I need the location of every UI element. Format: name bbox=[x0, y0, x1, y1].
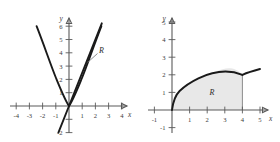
y-tick-label: -1 bbox=[160, 124, 166, 131]
x-tick-label: 1 bbox=[81, 112, 84, 119]
x-tick-label: 3 bbox=[223, 116, 227, 123]
y-tick-label: 1 bbox=[59, 89, 62, 96]
x-tick-label: 3 bbox=[107, 112, 111, 119]
x-tick-label: 2 bbox=[206, 116, 209, 123]
plot-left: -4 -3 -2 -1 1 2 3 4 -2 1 2 3 4 5 6 x y R bbox=[0, 0, 140, 142]
y-tick-label: 1 bbox=[162, 89, 165, 96]
y-axis-label-left: y bbox=[59, 14, 64, 23]
y-tick-label: 4 bbox=[59, 49, 63, 56]
y-tick-label: 2 bbox=[162, 71, 165, 78]
x-tick-label: -2 bbox=[40, 112, 46, 119]
region-label-right: R bbox=[209, 88, 215, 97]
x-tick-label: -1 bbox=[53, 112, 59, 119]
curve-sqrt-tail bbox=[242, 69, 260, 75]
figure-container: -4 -3 -2 -1 1 2 3 4 -2 1 2 3 4 5 6 x y R bbox=[0, 0, 280, 142]
x-tick-label: 5 bbox=[258, 116, 262, 123]
x-tick-label: 4 bbox=[241, 116, 245, 123]
y-tick-label: 4 bbox=[162, 36, 166, 43]
y-tick-label: -2 bbox=[57, 129, 63, 136]
plot-right: -1 1 2 3 4 5 -1 1 2 3 4 5 x y R bbox=[140, 0, 280, 142]
y-tick-label: 3 bbox=[162, 54, 166, 61]
region-label-left: R bbox=[98, 46, 104, 55]
y-axis-label-right: y bbox=[162, 14, 167, 23]
x-axis-label-left: x bbox=[127, 110, 132, 119]
x-tick-label: -1 bbox=[152, 116, 158, 123]
x-tick-label: -3 bbox=[27, 112, 33, 119]
x-tick-label: 2 bbox=[94, 112, 97, 119]
y-tick-label: 5 bbox=[59, 36, 63, 43]
y-tick-label: 3 bbox=[59, 63, 63, 70]
plot-right-svg: -1 1 2 3 4 5 -1 1 2 3 4 5 x y R bbox=[140, 0, 280, 142]
x-axis-label-right: x bbox=[268, 114, 273, 123]
x-tick-label: -4 bbox=[13, 112, 19, 119]
x-tick-label: 1 bbox=[188, 116, 191, 123]
y-tick-label: 2 bbox=[59, 76, 62, 83]
x-tick-label: 4 bbox=[120, 112, 124, 119]
y-tick-label: 6 bbox=[59, 23, 63, 30]
plot-left-svg: -4 -3 -2 -1 1 2 3 4 -2 1 2 3 4 5 6 x y R bbox=[0, 0, 140, 142]
region-fill-right-poly bbox=[172, 74, 242, 110]
